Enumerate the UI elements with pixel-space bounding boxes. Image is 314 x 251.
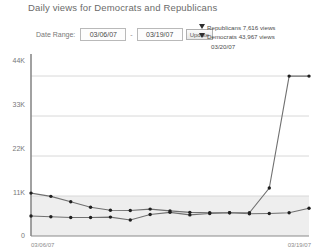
data-point	[168, 211, 171, 214]
data-point	[109, 215, 112, 218]
data-point	[29, 191, 32, 194]
data-point	[188, 213, 191, 216]
data-point	[228, 211, 231, 214]
data-point	[29, 214, 32, 217]
data-point	[129, 218, 132, 221]
data-point	[89, 216, 92, 219]
data-point	[307, 74, 310, 77]
data-point	[109, 208, 112, 211]
data-point	[268, 186, 271, 189]
data-point	[148, 207, 151, 210]
data-point	[307, 207, 310, 210]
data-point	[248, 212, 251, 215]
data-point	[287, 74, 290, 77]
plot-area[interactable]: 44K 33K 22K 11K 0 03/06/07 03/19/07	[0, 0, 314, 251]
data-point	[69, 216, 72, 219]
data-point	[129, 209, 132, 212]
data-point	[69, 200, 72, 203]
line-chart-svg	[0, 0, 314, 251]
chart-widget: Daily views for Democrats and Republican…	[0, 0, 314, 251]
data-point	[287, 211, 290, 214]
data-point	[49, 215, 52, 218]
data-point	[89, 206, 92, 209]
data-point	[148, 213, 151, 216]
data-point	[49, 195, 52, 198]
series-line-democrats	[31, 76, 309, 213]
data-point	[208, 212, 211, 215]
data-point	[268, 212, 271, 215]
